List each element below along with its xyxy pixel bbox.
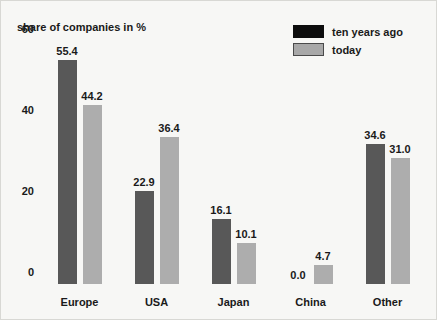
legend-item-ten-years-ago: ten years ago	[293, 25, 403, 38]
y-axis-tick-label: 20	[22, 185, 34, 197]
bar-slot: 36.4	[160, 41, 179, 284]
bar-slot: 44.2	[83, 41, 102, 284]
bar-slot: 34.6	[366, 41, 385, 284]
bar	[160, 137, 179, 284]
bar-value-label: 0.0	[290, 269, 305, 281]
bar-slot: 4.7	[314, 41, 333, 284]
bar	[135, 191, 154, 284]
bar	[391, 158, 410, 284]
bar-slot: 55.4	[58, 41, 77, 284]
legend-label-ten-years-ago: ten years ago	[332, 26, 403, 38]
y-axis-tick-label: 0	[28, 266, 34, 278]
bar-group: 55.444.2Europe	[41, 41, 118, 284]
bar-value-label: 44.2	[81, 90, 102, 102]
bar-slot: 0.0	[289, 41, 308, 284]
x-axis-category-label: Other	[349, 296, 426, 308]
bar-slot: 31.0	[391, 41, 410, 284]
bar-value-label: 4.7	[315, 250, 330, 262]
x-axis-category-label: China	[272, 296, 349, 308]
bar-value-label: 10.1	[235, 228, 256, 240]
plot-area: 0204060 55.444.2Europe22.936.4USA16.110.…	[41, 41, 426, 284]
bar-value-label: 55.4	[56, 45, 77, 57]
bar-group: 16.110.1Japan	[195, 41, 272, 284]
x-axis-category-label: Europe	[41, 296, 118, 308]
bar-slot: 10.1	[237, 41, 256, 284]
bar-group: 0.04.7China	[272, 41, 349, 284]
bar-value-label: 31.0	[389, 143, 410, 155]
bar-chart-figure: share of companies in % ten years ago to…	[0, 0, 437, 320]
bar-group: 22.936.4USA	[118, 41, 195, 284]
bar-value-label: 22.9	[133, 176, 154, 188]
bar-group: 34.631.0Other	[349, 41, 426, 284]
bar-slot: 22.9	[135, 41, 154, 284]
x-axis-category-label: Japan	[195, 296, 272, 308]
bar	[237, 243, 256, 284]
y-axis-tick-label: 40	[22, 104, 34, 116]
bar	[212, 219, 231, 284]
bar	[58, 60, 77, 284]
bar	[366, 144, 385, 284]
y-axis-tick-label: 60	[22, 23, 34, 35]
bar-value-label: 16.1	[210, 204, 231, 216]
bar	[83, 105, 102, 284]
bar-slot: 16.1	[212, 41, 231, 284]
x-axis-category-label: USA	[118, 296, 195, 308]
legend-swatch-icon-ten-years-ago	[293, 25, 324, 38]
bar-value-label: 34.6	[364, 129, 385, 141]
bar	[314, 265, 333, 284]
chart-title: share of companies in %	[17, 21, 146, 33]
bar-value-label: 36.4	[158, 122, 179, 134]
